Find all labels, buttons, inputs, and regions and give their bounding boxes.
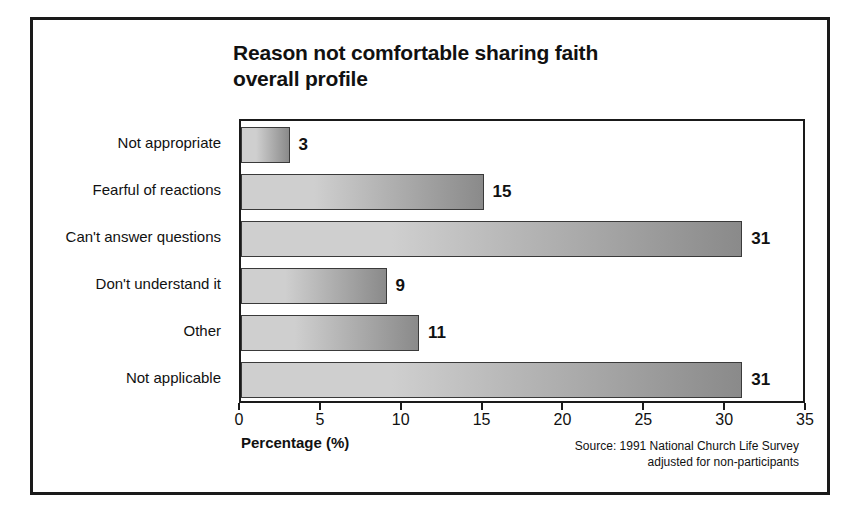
bar-value-label: 15 <box>493 182 512 202</box>
chart-title-line-2: overall profile <box>233 66 793 92</box>
category-label: Can't answer questions <box>66 219 221 255</box>
axis-tick-label: 20 <box>554 411 572 429</box>
axis-tick-label: 15 <box>473 411 491 429</box>
bar <box>241 221 742 257</box>
plot-area: 3153191131 <box>239 119 805 403</box>
bar-row: 31 <box>241 362 807 398</box>
value-axis-ticks: 05101520253035 <box>239 403 805 433</box>
bar-row: 11 <box>241 315 807 351</box>
chart-title-line-1: Reason not comfortable sharing faith <box>233 41 598 64</box>
axis-tick <box>319 403 321 410</box>
bar-value-label: 9 <box>396 276 405 296</box>
bar-row: 3 <box>241 127 807 163</box>
source-note: Source: 1991 National Church Life Survey… <box>575 438 799 470</box>
bar-value-label: 11 <box>428 323 446 343</box>
category-label: Other <box>183 313 221 349</box>
bar <box>241 268 387 304</box>
axis-tick-label: 10 <box>392 411 410 429</box>
category-label: Don't understand it <box>96 266 221 302</box>
axis-tick-label: 30 <box>715 411 733 429</box>
bar-row: 9 <box>241 268 807 304</box>
axis-tick-label: 0 <box>235 411 244 429</box>
bar-row: 31 <box>241 221 807 257</box>
bar <box>241 174 484 210</box>
category-axis-labels: Not appropriateFearful of reactionsCan't… <box>33 119 231 403</box>
axis-tick <box>561 403 563 410</box>
category-label: Not applicable <box>126 360 221 396</box>
source-note-line-2: adjusted for non-participants <box>575 454 799 470</box>
x-axis-title: Percentage (%) <box>241 434 349 451</box>
bar <box>241 315 419 351</box>
bar-value-label: 31 <box>751 370 770 390</box>
bar <box>241 362 742 398</box>
chart-figure: Reason not comfortable sharing faith ove… <box>30 17 830 495</box>
axis-tick <box>238 403 240 410</box>
axis-tick <box>804 403 806 410</box>
category-label: Not appropriate <box>118 125 221 161</box>
category-label: Fearful of reactions <box>93 172 221 208</box>
axis-tick-label: 35 <box>796 411 814 429</box>
axis-tick <box>400 403 402 410</box>
axis-tick <box>642 403 644 410</box>
chart-title: Reason not comfortable sharing faith ove… <box>233 40 793 93</box>
bar-value-label: 31 <box>751 229 770 249</box>
axis-tick-label: 25 <box>634 411 652 429</box>
source-note-line-1: Source: 1991 National Church Life Survey <box>575 438 799 454</box>
axis-tick <box>723 403 725 410</box>
bar-value-label: 3 <box>299 135 308 155</box>
bar-row: 15 <box>241 174 807 210</box>
axis-tick-label: 5 <box>315 411 324 429</box>
axis-tick <box>481 403 483 410</box>
bar <box>241 127 290 163</box>
